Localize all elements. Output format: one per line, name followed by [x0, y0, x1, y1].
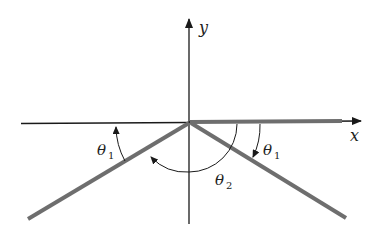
theta2-label: θ 2 — [215, 171, 232, 191]
x-axis-negative — [21, 123, 189, 124]
svg-text:1: 1 — [108, 150, 114, 161]
theta2-arc — [151, 124, 237, 172]
svg-text:θ: θ — [97, 141, 106, 159]
theta1-left-arc — [116, 127, 125, 161]
diagram-canvas: y x θ 1 θ 1 θ 2 — [0, 0, 383, 235]
theta1-left-label: θ 1 — [97, 141, 114, 161]
theta1-right-arc — [253, 124, 260, 157]
svg-text:1: 1 — [274, 150, 280, 161]
theta1-right-label: θ 1 — [263, 141, 280, 161]
angle-diagram: y x θ 1 θ 1 θ 2 — [0, 0, 383, 235]
svg-text:2: 2 — [226, 180, 232, 191]
x-axis-label: x — [350, 126, 359, 145]
ray-left — [28, 123, 189, 219]
ray-positive-x — [190, 121, 342, 122]
svg-text:θ: θ — [263, 141, 272, 159]
svg-text:θ: θ — [215, 171, 224, 189]
y-axis-label: y — [198, 18, 209, 37]
